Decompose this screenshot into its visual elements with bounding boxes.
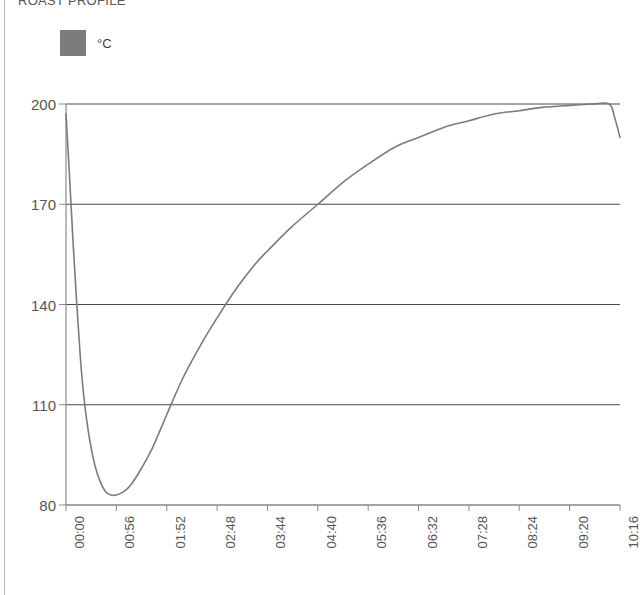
x-axis-label-11: 10:16 xyxy=(626,516,641,549)
x-axis-label-6: 05:36 xyxy=(374,516,389,549)
x-axis-label-4: 03:44 xyxy=(273,516,288,549)
x-axis-label-10: 09:20 xyxy=(576,516,591,549)
x-axis-label-9: 08:24 xyxy=(525,516,540,549)
x-axis-label-7: 06:32 xyxy=(425,516,440,549)
x-axis-label-5: 04:40 xyxy=(324,516,339,549)
x-axis-label-2: 01:52 xyxy=(173,516,188,549)
x-axis-label-0: 00:00 xyxy=(72,516,87,549)
x-axis-label-1: 00:56 xyxy=(122,516,137,549)
x-axis-label-8: 07:28 xyxy=(475,516,490,549)
x-axis-label-3: 02:48 xyxy=(223,516,238,549)
